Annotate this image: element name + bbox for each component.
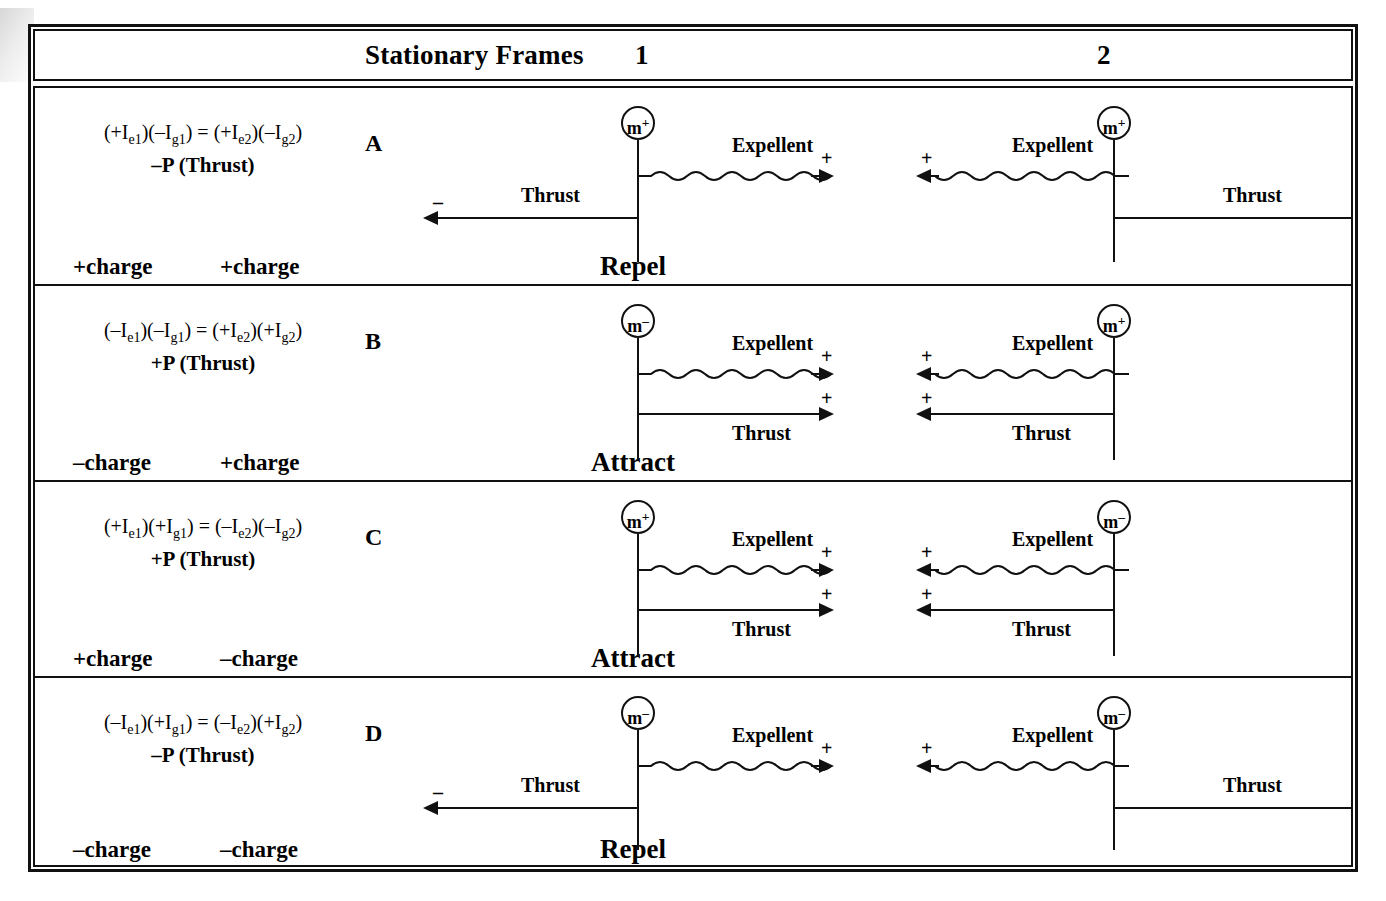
- arrowhead-thrust-left: [819, 407, 834, 421]
- thrust-sign-right: +: [921, 584, 932, 604]
- equation-term: )(–I: [142, 121, 172, 143]
- equation-block: (–Ie1)(–Ig1) = (+Ie2)(+Ig2)+P (Thrust): [53, 316, 353, 379]
- equation-line-1: (+Ie1)(–Ig1) = (+Ie2)(–Ig2): [53, 118, 353, 150]
- equation-term: (+I: [104, 121, 129, 143]
- expellent-wave: [637, 361, 833, 387]
- equation-line-1: (+Ie1)(+Ig1) = (–Ie2)(–Ig2): [53, 512, 353, 544]
- mass-node-right: m–: [1097, 696, 1131, 730]
- arrowhead-thrust-left: [423, 211, 438, 225]
- expellent-label-right: Expellent: [1012, 134, 1093, 157]
- equation-subscript: g1: [172, 722, 186, 737]
- equation-block: (+Ie1)(–Ig1) = (+Ie2)(–Ig2)–P (Thrust): [53, 118, 353, 181]
- arrowhead-expellent-left: [819, 563, 834, 577]
- arrowhead-expellent-right: [916, 367, 931, 381]
- mass-node-left: m–: [621, 696, 655, 730]
- equation-subscript: e1: [128, 526, 141, 541]
- interaction-result: Repel: [35, 834, 1351, 865]
- thrust-label-left: Thrust: [732, 618, 791, 641]
- expellent-label-left: Expellent: [732, 134, 813, 157]
- thrust-label-right: Thrust: [1223, 184, 1282, 207]
- thrust-label-left: Thrust: [521, 184, 580, 207]
- mass-node-right: m–: [1097, 500, 1131, 534]
- thrust-sign-left: –: [433, 782, 443, 802]
- expellent-wave: [933, 163, 1129, 189]
- expellent-sign-right: +: [921, 542, 932, 562]
- expellent-wave: [637, 753, 833, 779]
- header-bar: Stationary Frames 1 2: [33, 29, 1353, 81]
- post-right: [1113, 140, 1115, 262]
- arrowhead-expellent-left: [819, 759, 834, 773]
- equation-term: )(+I: [140, 711, 171, 733]
- thrust-line-left: [431, 807, 637, 809]
- expellent-label-left: Expellent: [732, 528, 813, 551]
- equation-term: )(–I: [251, 121, 281, 143]
- equation-subscript: e2: [238, 132, 251, 147]
- thrust-sign-left: +: [821, 388, 832, 408]
- diagram-body: (+Ie1)(–Ig1) = (+Ie2)(–Ig2)–P (Thrust)A+…: [33, 86, 1353, 867]
- arrowhead-expellent-right: [916, 563, 931, 577]
- interaction-result: Repel: [35, 251, 1351, 282]
- table-row: (+Ie1)(–Ig1) = (+Ie2)(–Ig2)–P (Thrust)A+…: [35, 88, 1351, 284]
- thrust-label-left: Thrust: [732, 422, 791, 445]
- expellent-sign-left: +: [821, 346, 832, 366]
- equation-line-2: –P (Thrust): [53, 150, 353, 180]
- thrust-line-right: [1113, 217, 1351, 219]
- frame-number-1: 1: [635, 40, 649, 71]
- row-letter-d: D: [365, 720, 382, 747]
- post-right: [1113, 730, 1115, 850]
- row-letter-c: C: [365, 524, 382, 551]
- equation-block: (+Ie1)(+Ig1) = (–Ie2)(–Ig2)+P (Thrust): [53, 512, 353, 575]
- post-left: [637, 338, 639, 460]
- expellent-sign-left: +: [821, 148, 832, 168]
- equation-subscript: g1: [173, 526, 187, 541]
- equation-term: (–I: [104, 319, 127, 341]
- equation-term: ) = (+I: [186, 121, 239, 143]
- arrowhead-expellent-left: [819, 169, 834, 183]
- equation-subscript: e2: [238, 526, 251, 541]
- thrust-line-left: [637, 609, 819, 611]
- expellent-label-right: Expellent: [1012, 724, 1093, 747]
- table-row: (–Ie1)(–Ig1) = (+Ie2)(+Ig2)+P (Thrust)B–…: [35, 284, 1351, 480]
- arrowhead-expellent-left: [819, 367, 834, 381]
- expellent-sign-right: +: [921, 738, 932, 758]
- post-left: [637, 140, 639, 262]
- arrowhead-expellent-right: [916, 169, 931, 183]
- equation-line-2: +P (Thrust): [53, 348, 353, 378]
- equation-term: )(+I: [142, 515, 173, 537]
- scan-artifact-top: [0, 0, 1386, 8]
- equation-term: ): [295, 711, 302, 733]
- mass-charge-sign: +: [642, 115, 650, 130]
- expellent-wave: [933, 753, 1129, 779]
- thrust-label-right: Thrust: [1012, 422, 1071, 445]
- table-row: (+Ie1)(+Ig1) = (–Ie2)(–Ig2)+P (Thrust)C+…: [35, 480, 1351, 676]
- mass-node-right: m+: [1097, 106, 1131, 140]
- interaction-result: Attract: [35, 447, 1351, 478]
- thrust-sign-right: +: [921, 388, 932, 408]
- thrust-label-right: Thrust: [1012, 618, 1071, 641]
- interaction-result: Attract: [35, 643, 1351, 674]
- post-right: [1113, 338, 1115, 460]
- arrowhead-thrust-left: [819, 603, 834, 617]
- thrust-sign-left: +: [821, 584, 832, 604]
- mass-charge-sign: –: [1118, 705, 1125, 720]
- equation-subscript: g1: [172, 132, 186, 147]
- thrust-sign-left: –: [433, 192, 443, 212]
- row-letter-b: B: [365, 328, 381, 355]
- mass-node-right: m+: [1097, 304, 1131, 338]
- expellent-sign-left: +: [821, 542, 832, 562]
- expellent-label-left: Expellent: [732, 724, 813, 747]
- equation-term: (+I: [104, 515, 129, 537]
- arrowhead-expellent-right: [916, 759, 931, 773]
- thrust-line-right: [931, 609, 1113, 611]
- table-row: (–Ie1)(+Ig1) = (–Ie2)(+Ig2)–P (Thrust)D–…: [35, 676, 1351, 867]
- equation-term: ) = (+I: [184, 319, 237, 341]
- equation-subscript: e1: [127, 330, 140, 345]
- equation-subscript: e1: [128, 132, 141, 147]
- mass-charge-sign: –: [642, 313, 649, 328]
- equation-term: ) = (–I: [186, 711, 237, 733]
- mass-charge-sign: –: [642, 705, 649, 720]
- expellent-label-left: Expellent: [732, 332, 813, 355]
- equation-subscript: g2: [281, 132, 295, 147]
- expellent-sign-left: +: [821, 738, 832, 758]
- thrust-line-left: [637, 413, 819, 415]
